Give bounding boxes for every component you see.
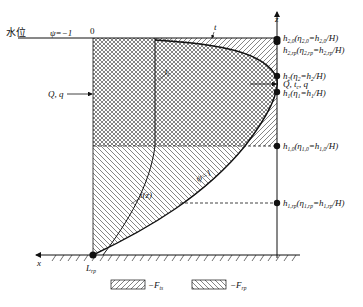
psi-minus-one-label: ψ=−1	[50, 28, 72, 38]
legend-swatch-frp	[192, 280, 226, 289]
h1-rp-label: h1,rp(η1,rp=h1,rp/H)	[283, 198, 345, 209]
t-label: t	[214, 22, 217, 32]
water-level-label: 水位	[6, 26, 26, 38]
z-axis-label: z	[274, 14, 279, 24]
t-arrow	[212, 32, 214, 38]
Lrp-label: Lrp	[85, 263, 96, 274]
legend-label-frp: −Frp	[230, 280, 247, 291]
zero-label: 0	[90, 26, 95, 36]
legend-label-fts: −Fts	[148, 280, 163, 291]
Q-q-label: Q, q	[48, 89, 64, 99]
seepage-diagram: 水位 ψ=−1 0 t z x Q, q tc t(z) ψ=1 Lrp h2,…	[0, 0, 363, 307]
Lrp-point	[89, 251, 96, 258]
h1-label: h1(η1=h1/H)	[283, 88, 326, 99]
h2-0-label: h2,0(η2,0=h2,0/H)	[283, 33, 338, 44]
ground-hatch	[52, 255, 296, 261]
legend-swatch-fts	[111, 280, 145, 289]
tz-label: t(z)	[140, 190, 152, 200]
x-axis-label: x	[36, 258, 41, 268]
h2-rp-label: h2,rp(η2,rp=h2,rp/H)	[283, 45, 345, 56]
h1-0-label: h1,0(η1,0=h1,0/H)	[283, 141, 338, 152]
region-frp	[93, 146, 245, 255]
legend: −Fts −Frp	[111, 280, 247, 291]
